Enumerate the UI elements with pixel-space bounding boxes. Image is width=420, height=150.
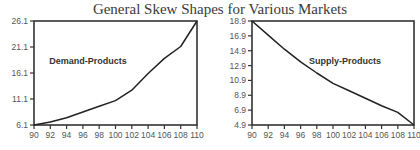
series-line [34,21,197,125]
charts-canvas: 6.111.116.121.126.1909294969810010210410… [0,0,420,150]
y-tick-label: 8.9 [234,90,246,100]
x-tick-label: 92 [263,130,273,140]
x-tick-label: 104 [358,130,372,140]
x-tick-label: 94 [280,130,290,140]
x-tick-label: 92 [46,130,56,140]
y-tick-label: 18.9 [229,16,246,26]
y-tick-label: 21.1 [11,42,28,52]
supply-products-chart: 4.96.98.910.912.914.916.918.990929496981… [229,16,420,140]
series-annotation: Supply-Products [309,56,381,66]
x-tick-label: 94 [62,130,72,140]
x-tick-label: 100 [108,130,122,140]
y-tick-label: 16.1 [11,68,28,78]
series-annotation: Demand-Products [49,56,127,66]
x-tick-label: 98 [94,130,104,140]
demand-products-chart: 6.111.116.121.126.1909294969810010210410… [11,16,204,140]
x-tick-label: 102 [342,130,356,140]
y-tick-label: 12.9 [229,61,246,71]
series-line [252,21,414,125]
x-tick-label: 106 [157,130,171,140]
x-tick-label: 106 [375,130,389,140]
y-tick-label: 6.1 [16,120,28,130]
y-tick-label: 4.9 [234,120,246,130]
x-tick-label: 90 [29,130,39,140]
plot-frame [34,21,197,125]
x-tick-label: 100 [326,130,340,140]
x-tick-label: 108 [391,130,405,140]
x-tick-label: 102 [125,130,139,140]
y-tick-label: 16.9 [229,31,246,41]
y-tick-label: 11.1 [12,94,28,104]
y-tick-label: 26.1 [11,16,28,26]
x-tick-label: 96 [78,130,88,140]
x-tick-label: 110 [190,130,204,140]
y-tick-label: 14.9 [229,46,246,56]
x-tick-label: 108 [174,130,188,140]
x-tick-label: 98 [312,130,322,140]
x-tick-label: 90 [247,130,257,140]
x-tick-label: 104 [141,130,155,140]
x-tick-label: 110 [407,130,420,140]
y-tick-label: 10.9 [229,75,246,85]
y-tick-label: 6.9 [234,105,246,115]
x-tick-label: 96 [296,130,306,140]
